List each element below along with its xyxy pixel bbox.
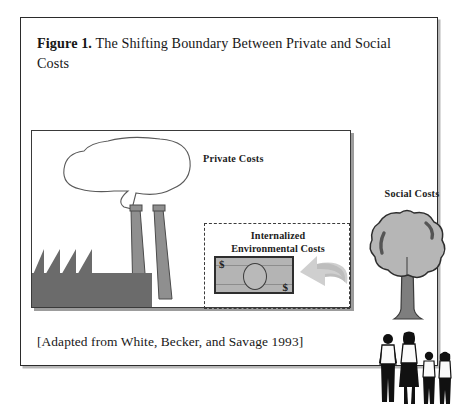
diagram-area: Social Costs xyxy=(21,110,439,318)
internalized-costs-box: Internalized Environmental Costs $ $ xyxy=(204,223,350,309)
dollar-sign-bottom-right: $ xyxy=(283,281,289,293)
factory-icon xyxy=(32,131,212,307)
dollar-sign-top-left: $ xyxy=(219,258,225,270)
social-costs-label: Social Costs xyxy=(371,188,453,199)
people-group-icon xyxy=(373,330,455,408)
source-caption: [Adapted from White, Becker, and Savage … xyxy=(37,334,303,350)
private-costs-label: Private Costs xyxy=(203,153,264,164)
figure-frame: Figure 1. The Shifting Boundary Between … xyxy=(20,17,438,366)
dollar-bill-icon: $ $ xyxy=(214,256,294,294)
internalized-label-line1: Internalized xyxy=(205,229,351,242)
bill-portrait-oval xyxy=(243,263,267,290)
curved-arrow-icon xyxy=(297,250,349,296)
tree-icon xyxy=(366,205,450,323)
figure-label: Figure 1. xyxy=(37,35,92,51)
figure-title: Figure 1. The Shifting Boundary Between … xyxy=(37,34,419,73)
